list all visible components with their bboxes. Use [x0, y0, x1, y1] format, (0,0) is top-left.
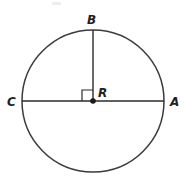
label-r: R — [98, 86, 107, 100]
label-a: A — [169, 95, 179, 109]
geometry-figure: B C R A — [0, 0, 184, 185]
circle-diagram-svg: B C R A — [0, 0, 184, 185]
scan-artifact — [52, 2, 61, 5]
label-b: B — [87, 13, 96, 27]
center-point-dot — [90, 98, 96, 104]
label-c: C — [7, 95, 16, 109]
